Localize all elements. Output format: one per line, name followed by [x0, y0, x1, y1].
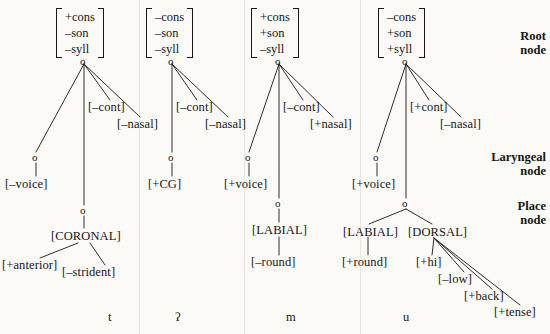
matrix-row: –cons [387, 10, 416, 25]
laryngeal-node-u: o [373, 152, 379, 163]
root-node-t: o [80, 56, 86, 67]
feature-voice-m: [+voice] [224, 178, 267, 191]
feature-back-u: [+back] [464, 290, 504, 303]
root-node-u: o [402, 56, 408, 67]
segment-label-u: u [403, 311, 409, 324]
feature-geometry-diagram: +cons –son –syll o [–cont] [–nasal] o [–… [0, 0, 550, 334]
feature-nasal-t: [–nasal] [117, 118, 158, 131]
laryngeal-node-t: o [32, 152, 38, 163]
place-label-coronal: [CORONAL] [51, 230, 121, 243]
column-separator [139, 0, 140, 334]
root-matrix-t: +cons –son –syll [56, 8, 104, 58]
segment-label-m: m [286, 311, 296, 324]
bracket-right [98, 8, 104, 58]
laryngeal-node-glottal: o [168, 152, 174, 163]
feature-round-m: [–round] [251, 256, 296, 269]
feature-cont-m: [–cont] [283, 101, 320, 114]
place-node-u: o [402, 198, 408, 209]
matrix-row: +cons [65, 10, 95, 25]
feature-anterior-t: [+anterior] [2, 259, 57, 272]
tier-label-laryngeal-line2: node [440, 164, 546, 178]
bracket-right [293, 8, 299, 58]
feature-strident-t: [–strident] [62, 266, 115, 279]
tier-label-place-line1: Place [458, 199, 546, 213]
tier-label-laryngeal: Laryngeal node [440, 150, 546, 179]
matrix-row: –son [155, 26, 184, 41]
feature-tense-u: [+tense] [494, 306, 536, 319]
feature-voice-u: [+voice] [352, 178, 395, 191]
feature-nasal-u: [–nasal] [440, 118, 481, 131]
feature-low-u: [–low] [438, 273, 472, 286]
column-separator [244, 0, 245, 334]
place-label-dorsal-u: [DORSAL] [408, 226, 467, 239]
root-matrix-m: +cons +son –syll [251, 8, 299, 58]
root-matrix-glottal: –cons –son –syll [146, 8, 193, 58]
feature-nasal-m: [+nasal] [310, 118, 352, 131]
root-matrix-u: –cons +son +syll [378, 8, 425, 58]
feature-nasal-glottal: [–nasal] [205, 118, 246, 131]
root-node-m: o [275, 56, 281, 67]
laryngeal-node-m: o [245, 152, 251, 163]
place-label-labial-u: [LABIAL] [343, 226, 398, 239]
feature-hi-u: [+hi] [416, 256, 442, 269]
bracket-right [419, 8, 425, 58]
place-node-m: o [275, 198, 281, 209]
matrix-row: +cons [260, 10, 290, 25]
column-separator [360, 0, 361, 334]
matrix-row: +son [260, 26, 290, 41]
place-label-labial-m: [LABIAL] [252, 224, 307, 237]
place-node-t: o [80, 205, 86, 216]
tier-label-root-line2: node [458, 43, 546, 57]
feature-round-u: [+round] [342, 256, 387, 269]
root-node-glottal: o [168, 56, 174, 67]
tier-label-laryngeal-line1: Laryngeal [440, 150, 546, 164]
tier-label-root: Root node [458, 29, 546, 58]
feature-cont-glottal: [–cont] [176, 101, 213, 114]
feature-voice-t: [–voice] [5, 178, 47, 191]
feature-cont-u: [+cont] [410, 101, 448, 114]
matrix-row: –cons [155, 10, 184, 25]
tier-label-place-line2: node [458, 213, 546, 227]
segment-label-glottal: ʔ [175, 311, 181, 324]
segment-label-t: t [108, 311, 111, 324]
matrix-row: –son [65, 26, 95, 41]
feature-cont-t: [–cont] [88, 101, 125, 114]
bracket-right [187, 8, 193, 58]
tier-label-root-line1: Root [458, 29, 546, 43]
tier-label-place: Place node [458, 199, 546, 228]
feature-cg-glottal: [+CG] [148, 178, 181, 191]
matrix-row: +son [387, 26, 416, 41]
